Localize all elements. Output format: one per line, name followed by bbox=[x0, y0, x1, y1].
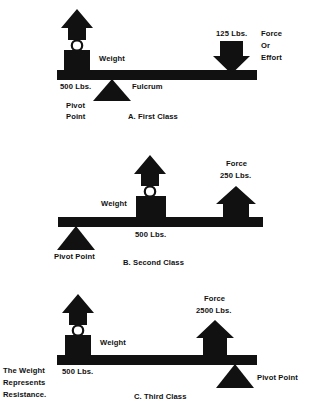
weight-up-arrow-icon bbox=[134, 155, 166, 186]
weight-value-1: 500 Lbs. bbox=[60, 82, 91, 93]
force-up-arrow-icon bbox=[196, 320, 234, 355]
lever-beam bbox=[58, 217, 263, 227]
second-class-lever-group: Weight 500 Lbs. Pivot Point Force 250 Lb… bbox=[0, 140, 312, 280]
pivot-label-2: Pivot Point bbox=[54, 252, 95, 263]
pivot-triangle bbox=[216, 364, 254, 388]
pivot-label-3: Pivot Point bbox=[257, 373, 298, 384]
first-class-lever-group: Weight 500 Lbs. Fulcrum Pivot Point 125 … bbox=[0, 0, 312, 140]
weight-up-arrow-icon bbox=[61, 9, 93, 40]
weight-up-arrow-icon bbox=[62, 294, 94, 325]
weight-block bbox=[136, 196, 166, 218]
force-label-1-line2: Or bbox=[261, 41, 270, 52]
force-label-3: Force bbox=[204, 294, 225, 305]
pivot-label-1-line2: Point bbox=[66, 112, 85, 123]
force-value-1: 125 Lbs. bbox=[216, 29, 247, 40]
caption-first-class: A. First Class bbox=[128, 112, 178, 121]
force-label-1-line1: Force bbox=[261, 29, 282, 40]
weight-value-2: 500 Lbs. bbox=[135, 230, 166, 241]
force-down-arrow-icon bbox=[213, 41, 250, 74]
weight-block bbox=[65, 335, 91, 356]
force-up-arrow-icon bbox=[216, 186, 256, 218]
force-value-2: 250 Lbs. bbox=[220, 171, 251, 182]
caption-second-class: B. Second Class bbox=[123, 258, 184, 267]
weight-ring-icon bbox=[73, 325, 83, 335]
lever-beam bbox=[57, 355, 257, 365]
pivot-triangle bbox=[57, 226, 95, 250]
lever-beam bbox=[57, 70, 257, 80]
force-label-2: Force bbox=[226, 159, 247, 170]
force-value-3: 2500 Lbs. bbox=[196, 306, 232, 317]
weight-label-2: Weight bbox=[101, 199, 127, 210]
fulcrum-triangle bbox=[93, 79, 131, 101]
weight-label-1: Weight bbox=[99, 54, 125, 65]
weight-label-3: Weight bbox=[100, 338, 126, 349]
weight-ring-icon bbox=[72, 40, 82, 50]
third-class-lever-group: Weight 500 Lbs. Force 2500 Lbs. Pivot Po… bbox=[0, 280, 312, 417]
pivot-label-1-line1: Pivot bbox=[66, 101, 85, 112]
weight-ring-icon bbox=[145, 186, 155, 196]
resistance-note-line3: Resistance. bbox=[3, 390, 46, 401]
caption-third-class: C. Third Class bbox=[134, 392, 186, 401]
weight-value-3: 500 Lbs. bbox=[62, 367, 93, 378]
force-label-1-line3: Effort bbox=[261, 53, 282, 64]
lever-diagram: Weight 500 Lbs. Fulcrum Pivot Point 125 … bbox=[0, 0, 312, 417]
resistance-note-line2: Represents bbox=[3, 378, 45, 389]
fulcrum-label-1: Fulcrum bbox=[132, 82, 163, 93]
resistance-note-line1: The Weight bbox=[3, 366, 45, 377]
weight-block bbox=[64, 50, 90, 71]
